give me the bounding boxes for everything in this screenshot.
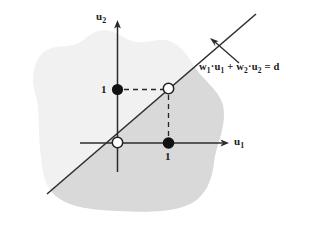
marker-point-1-1-open	[163, 83, 173, 93]
marker-point-1-0-filled	[163, 137, 175, 149]
marker-origin-open	[112, 137, 122, 147]
marker-point-0-1-filled	[112, 84, 123, 95]
equation-w1: w	[199, 61, 207, 72]
tick-label-u2-one: 1	[101, 84, 107, 95]
equation-u1-sub: 1	[221, 66, 225, 75]
tick-label-u1-one: 1	[165, 151, 171, 162]
equation-u2-sub: 2	[258, 66, 262, 75]
annotation-arrowhead	[210, 38, 219, 47]
u1-axis-label: u1	[234, 136, 244, 150]
u2-axis-label: u2	[96, 11, 106, 25]
equation-w2: w	[236, 61, 244, 72]
separating-line-equation: w1·u1 + w2·u2 = d	[199, 62, 280, 75]
figure-canvas	[0, 0, 312, 227]
u2-axis-label-sub: 2	[102, 16, 106, 25]
equation-equals-d: = d	[265, 61, 280, 72]
xor-separating-line-figure: u2 u1 1 1 w1·u1 + w2·u2 = d	[0, 0, 312, 227]
u1-axis-label-sub: 1	[240, 141, 244, 150]
equation-plus: +	[227, 61, 233, 72]
shaded-region	[0, 15, 312, 227]
